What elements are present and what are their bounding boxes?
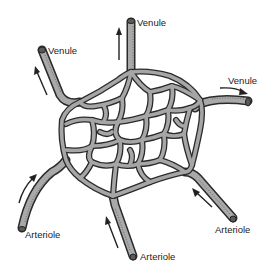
- venule-left-end: [39, 47, 46, 53]
- arteriole-right-end: [230, 216, 236, 222]
- label-venule-left: Venule: [48, 45, 77, 56]
- capillary-segment: [130, 150, 132, 165]
- label-arteriole-right: Arteriole: [215, 224, 250, 235]
- capillary-network: [62, 72, 203, 197]
- label-arteriole-left: Arteriole: [25, 229, 60, 240]
- label-venule-top: Venule: [137, 17, 166, 28]
- capillary-segment: [164, 134, 184, 136]
- capillary-segment: [100, 132, 112, 134]
- arrow-venule-left: [34, 66, 47, 95]
- label-arteriole-bottom: Arteriole: [140, 251, 175, 262]
- label-venule-right: Venule: [228, 75, 257, 86]
- arteriole-bottom-end: [130, 254, 136, 260]
- arteriole-bottom-fill: [113, 196, 133, 256]
- capillary-segment: [104, 106, 106, 121]
- venule-top-end: [127, 19, 135, 24]
- arrow-venule-top: [116, 27, 122, 60]
- venule-right-end: [246, 98, 251, 106]
- arrow-venule-right: [220, 88, 248, 95]
- capillary-bed-diagram: Venule Venule Venule Arteriole Arteriole…: [0, 0, 274, 272]
